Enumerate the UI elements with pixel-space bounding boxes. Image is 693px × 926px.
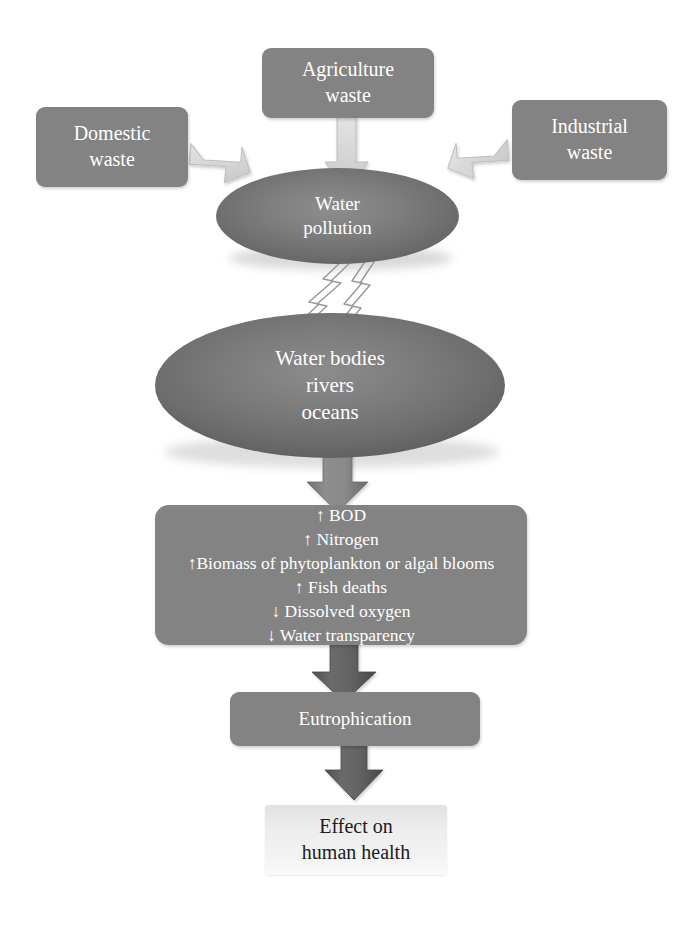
node-water-pollution-label: Water pollution [303, 192, 372, 241]
diagram-canvas: Agriculture waste Domestic waste Industr… [0, 0, 693, 926]
node-effect-on-human-health[interactable]: Effect on human health [265, 805, 447, 875]
node-water-quality-effects[interactable]: ↑ BOD ↑ Nitrogen ↑Biomass of phytoplankt… [155, 505, 527, 645]
node-water-pollution[interactable]: Water pollution [216, 168, 459, 264]
node-domestic-waste[interactable]: Domestic waste [36, 107, 188, 187]
arrow-domestic-to-pollution [183, 133, 256, 188]
node-eutrophication-label: Eutrophication [299, 707, 412, 731]
arrow-eutrophication-to-health [325, 744, 383, 800]
node-water-bodies-label: Water bodies rivers oceans [275, 345, 385, 426]
arrow-industrial-to-pollution [442, 129, 515, 184]
node-industrial-waste[interactable]: Industrial waste [512, 100, 667, 180]
node-water-quality-effects-label: ↑ BOD ↑ Nitrogen ↑Biomass of phytoplankt… [188, 503, 495, 648]
node-eutrophication[interactable]: Eutrophication [230, 692, 480, 746]
node-industrial-waste-label: Industrial waste [551, 114, 628, 165]
node-agriculture-waste[interactable]: Agriculture waste [262, 48, 434, 118]
node-water-bodies[interactable]: Water bodies rivers oceans [155, 313, 505, 458]
node-agriculture-waste-label: Agriculture waste [302, 57, 394, 108]
node-domestic-waste-label: Domestic waste [74, 121, 151, 172]
node-effect-on-human-health-label: Effect on human health [302, 814, 410, 865]
